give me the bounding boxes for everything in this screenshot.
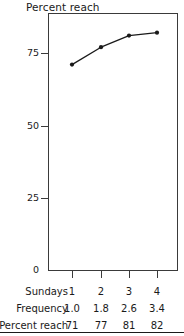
y-tick-25 bbox=[41, 198, 49, 199]
cell-frequency-2: 1.8 bbox=[88, 300, 114, 317]
y-tick-label-0: 0 bbox=[33, 265, 39, 275]
cell-sundays-3: 3 bbox=[116, 283, 142, 300]
bottom-rule bbox=[0, 332, 184, 333]
y-tick-50 bbox=[41, 126, 49, 127]
cell-sundays-4: 4 bbox=[144, 283, 170, 300]
cell-sundays-2: 2 bbox=[88, 283, 114, 300]
x-tick-1 bbox=[72, 271, 73, 278]
plot-area bbox=[48, 13, 178, 271]
y-tick-label-50: 50 bbox=[27, 121, 39, 131]
cell-frequency-4: 3.4 bbox=[144, 300, 170, 317]
x-tick-2 bbox=[101, 271, 102, 278]
cell-frequency-3: 2.6 bbox=[116, 300, 142, 317]
x-tick-4 bbox=[157, 271, 158, 278]
chart-figure: Percent reach 75 50 25 0 Sundays 1 2 3 4… bbox=[0, 0, 184, 336]
cell-sundays-1: 1 bbox=[59, 283, 85, 300]
chart-title: Percent reach bbox=[26, 1, 100, 13]
x-tick-3 bbox=[129, 271, 130, 278]
data-table: Sundays 1 2 3 4 Frequency 1.0 1.8 2.6 3.… bbox=[0, 283, 184, 334]
y-tick-label-75: 75 bbox=[27, 48, 39, 58]
y-tick-label-25: 25 bbox=[27, 193, 39, 203]
cell-frequency-1: 1.0 bbox=[59, 300, 85, 317]
y-tick-75 bbox=[41, 53, 49, 54]
table-row: Frequency 1.0 1.8 2.6 3.4 bbox=[0, 300, 184, 317]
table-row: Sundays 1 2 3 4 bbox=[0, 283, 184, 300]
